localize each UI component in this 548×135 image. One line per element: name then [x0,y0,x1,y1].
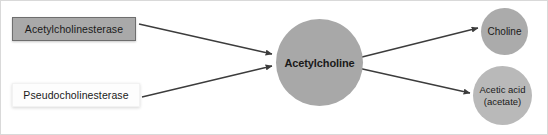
molecule-circle-acetylcholine: Acetylcholine [276,19,363,106]
molecule-circle-choline: Choline [481,8,528,55]
molecule-label-acetic-acid-line2: (acetate) [480,96,526,107]
arrow-acetylcholine-to-acetic-acid [358,68,470,93]
molecule-label-acetylcholine: Acetylcholine [284,57,354,69]
enzyme-box-pseudocholinesterase: Pseudocholinesterase [12,83,140,107]
enzyme-box-acetylcholinesterase: Acetylcholinesterase [12,17,136,41]
arrow-pseudocholinesterase-to-acetylcholine [142,66,272,97]
molecule-circle-acetic-acid: Acetic acid (acetate) [473,66,532,125]
molecule-label-acetic-acid-line1: Acetic acid [480,84,526,95]
molecule-label-choline: Choline [488,26,522,37]
arrow-acetylcholinesterase-to-acetylcholine [139,24,272,54]
enzyme-label-pseudocholinesterase: Pseudocholinesterase [23,89,128,101]
molecule-label-acetic-acid: Acetic acid (acetate) [480,84,526,106]
enzyme-label-acetylcholinesterase: Acetylcholinesterase [25,23,123,35]
arrow-acetylcholine-to-choline [358,28,478,58]
acetylcholine-pathway-diagram: Acetylcholinesterase Pseudocholinesteras… [0,0,548,135]
